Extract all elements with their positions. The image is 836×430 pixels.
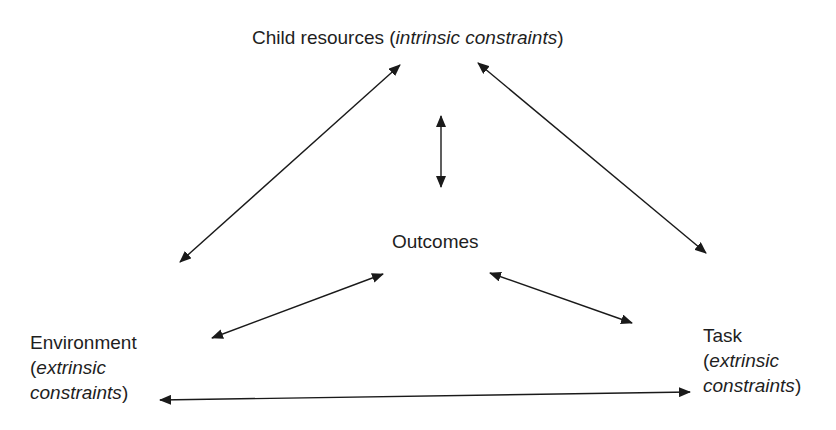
arrows-layer <box>0 0 836 430</box>
arrow-child-environment <box>180 65 400 262</box>
arrow-environment-task <box>160 392 690 400</box>
arrow-outcomes-task <box>490 273 632 323</box>
arrow-child-task <box>478 63 706 253</box>
arrow-environment-outcomes <box>212 274 383 338</box>
